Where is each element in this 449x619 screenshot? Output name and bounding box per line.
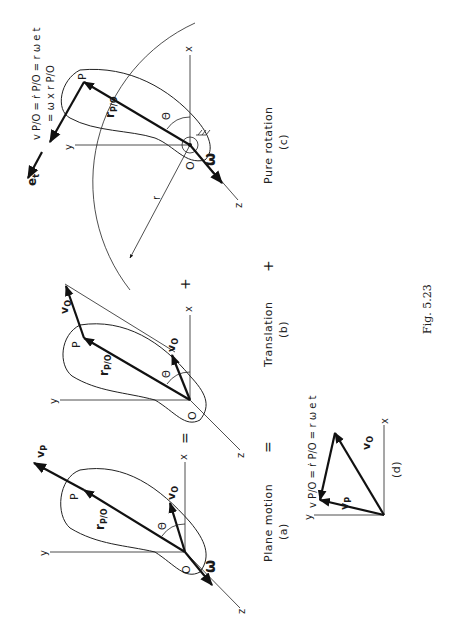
equation-line-1: v P/O = ṙ P/O = r ω e t [31,27,42,140]
label-z: z [236,609,247,614]
caption-tag-b: (b) [277,321,290,338]
equals-operator-caption: = [260,441,276,453]
label-radius-r: r [151,195,162,200]
panel-a-plane-motion: x y z O P rP/O vO vP Θ ω [34,445,247,614]
label-P: P [68,493,81,500]
equation-line-2: = ω x r P/O [45,65,56,122]
label-r-PO: rP/O [103,96,119,118]
panel-b-translation: x y z O P rP/O vO vO Θ [48,284,246,458]
label-vP: vP [34,445,49,458]
caption-pure-rotation: Pure rotation [262,106,275,184]
label-e-t: et [25,174,41,186]
label-vO-at-O: vO [165,338,180,352]
label-vO: vO [165,486,180,500]
label-y: y [38,550,49,556]
rotation-radius-arc [93,23,195,290]
label-y: y [48,398,59,404]
label-x: x [183,46,194,52]
label-r-PO: rP/O [97,354,113,376]
plus-operator-top: + [177,278,193,290]
panel-d-velocity-triangle: x y vO vP v P/O = ṙ P/O = r ω e t (d) [303,395,403,520]
label-vO-at-P: vO [58,300,73,314]
label-vP: vP [338,497,353,510]
label-P: P [70,341,83,348]
r-PO-vector [84,82,190,145]
caption-tag-a: (a) [277,523,290,540]
label-x: x [178,454,189,460]
label-theta: Θ [161,370,172,378]
vP-vector [34,463,84,490]
caption-tag-c: (c) [277,134,290,150]
panel-c-pure-rotation: x y z O P rP/O Θ r ω et v P/O = ṙ P/O = … [25,23,244,290]
label-O: O [180,565,193,574]
label-r-PO: rP/O [93,508,109,530]
caption-plane-motion: Plane motion [262,484,275,562]
label-P: P [76,73,89,80]
caption-translation: Translation [262,302,275,368]
label-x: x [379,418,390,424]
label-vO: vO [360,436,375,450]
figure-canvas: x y z O P rP/O Θ r ω et v P/O = ṙ P/O = … [0,0,449,619]
pivot-ground-hatch [196,130,210,135]
label-O: O [184,161,197,170]
label-omega: ω [201,560,219,573]
label-y: y [303,514,314,520]
label-x: x [183,306,194,312]
plus-operator-caption: + [260,260,276,272]
vPO-vector [320,433,335,500]
vO-at-O-vector [172,355,190,400]
label-theta: Θ [157,522,168,530]
caption-tag-d: (d) [390,461,403,478]
label-theta: Θ [161,112,172,120]
radius-line [130,145,190,258]
equation-vPO: v P/O = ṙ P/O = r ω e t [307,395,318,508]
figure-number: Fig. 5.23 [421,284,434,334]
label-y: y [63,144,74,150]
label-z: z [235,453,246,458]
z-axis [190,400,240,450]
label-O: O [186,411,199,420]
label-omega: ω [201,153,219,166]
label-z: z [233,203,244,208]
equals-operator-top: = [177,432,193,444]
